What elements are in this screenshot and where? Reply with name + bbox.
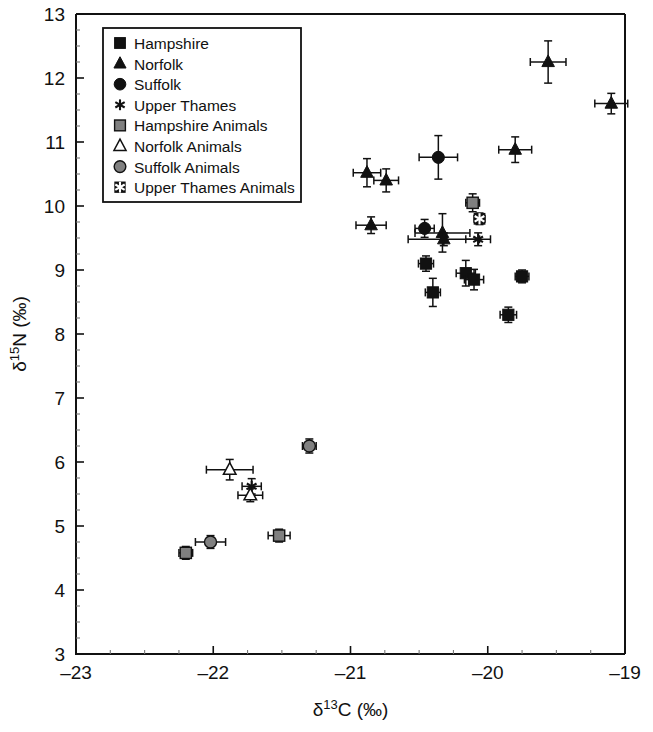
y-tick-label: 12	[44, 68, 65, 89]
marker-circle-legend	[114, 78, 126, 90]
marker-square-point	[516, 271, 527, 282]
marker-square-legend	[115, 38, 126, 49]
legend-item-upper-thames: Upper Thames	[115, 97, 236, 114]
y-tick-label: 13	[44, 4, 65, 25]
x-tick-label: –19	[609, 662, 641, 683]
legend-item-label: Norfolk Animals	[134, 138, 242, 155]
legend-item-suffolk-animals: Suffolk Animals	[114, 159, 240, 176]
marker-square-point	[427, 287, 438, 298]
legend-item-label: Upper Thames	[134, 97, 236, 114]
legend-item-hampshire-animals: Hampshire Animals	[115, 117, 268, 134]
marker-square-point	[420, 258, 431, 269]
marker-circle-legend	[114, 161, 126, 173]
legend-item-norfolk-animals: Norfolk Animals	[114, 138, 242, 155]
marker-circle-point	[419, 222, 431, 234]
x-tick-label: –22	[197, 662, 229, 683]
legend-item-label: Hampshire Animals	[134, 117, 268, 134]
marker-circle-point	[303, 440, 315, 452]
y-tick-label: 7	[54, 388, 65, 409]
marker-square-point	[467, 197, 478, 208]
marker-circle-point	[204, 536, 216, 548]
y-tick-label: 10	[44, 196, 65, 217]
chart-background	[0, 0, 653, 732]
series-upper-thames-animals	[474, 213, 486, 225]
legend-item-label: Upper Thames Animals	[134, 179, 295, 196]
y-tick-label: 8	[54, 324, 65, 345]
x-tick-label: –21	[335, 662, 367, 683]
legend-item-label: Hampshire	[134, 35, 209, 52]
legend-border	[103, 28, 301, 202]
x-tick-label: –23	[60, 662, 92, 683]
y-tick-label: 4	[54, 580, 65, 601]
marker-asterisk-legend	[114, 182, 125, 193]
chart-canvas: 345678910111213–23–22–21–20–19 Hampshire…	[0, 0, 653, 732]
legend-item-label: Norfolk	[134, 56, 183, 73]
marker-square-point	[503, 309, 514, 320]
legend-item-upper-thames-animals: Upper Thames Animals	[114, 179, 295, 196]
legend-item-label: Suffolk	[134, 76, 181, 93]
legend-item-label: Suffolk Animals	[134, 159, 240, 176]
y-tick-label: 11	[45, 132, 65, 153]
marker-square-point	[274, 530, 285, 541]
y-tick-label: 6	[54, 452, 65, 473]
y-tick-label: 9	[54, 260, 65, 281]
x-tick-label: –20	[472, 662, 504, 683]
y-tick-label: 5	[54, 516, 65, 537]
marker-square-point	[468, 274, 479, 285]
chart-legend: HampshireNorfolkSuffolkUpper ThamesHamps…	[103, 28, 301, 202]
marker-circle-point	[432, 151, 444, 163]
marker-square-point	[180, 547, 191, 558]
scatter-plot-figure: 345678910111213–23–22–21–20–19 Hampshire…	[0, 0, 653, 732]
marker-square-legend	[115, 120, 126, 131]
marker-asterisk-point	[474, 213, 486, 225]
